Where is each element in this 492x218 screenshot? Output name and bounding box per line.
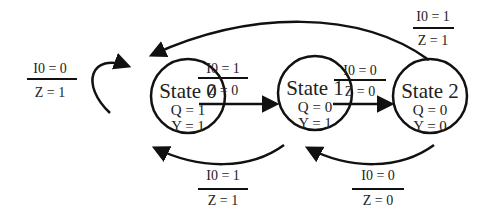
- transition-s2-s1: I0 = 0 Z = 0: [308, 145, 434, 208]
- state-2-y: Y = 0: [413, 118, 447, 134]
- state-1-node: State 1 Q = 0 Y = 1: [278, 56, 352, 131]
- s2-s0-input: I0 = 1: [416, 9, 450, 24]
- transition-s1-s0: I0 = 1 Z = 1: [155, 145, 284, 208]
- s2-s1-output: Z = 0: [363, 193, 393, 208]
- state-0-y: Y = 1: [171, 118, 205, 134]
- s0-s1-output: Z = 0: [208, 83, 238, 98]
- s1-s0-arrow-icon: [155, 145, 284, 164]
- s2-s1-input: I0 = 0: [361, 168, 395, 183]
- s1-s2-input: I0 = 0: [343, 63, 377, 78]
- s2-s1-arrow-icon: [308, 145, 434, 164]
- s1-s2-output: Z = 0: [345, 84, 375, 99]
- state-2-node: State 2 Q = 0 Y = 0: [393, 59, 467, 134]
- state-diagram: State 0 Q = 1 Y = 1 State 1 Q = 0 Y = 1 …: [0, 0, 492, 218]
- transition-s0-s1: I0 = 1 Z = 0: [198, 61, 276, 104]
- state-2-q: Q = 0: [413, 102, 447, 118]
- transition-s2-s0: I0 = 1 Z = 1: [152, 9, 454, 60]
- state-1-y: Y = 1: [298, 115, 332, 131]
- s2-s0-output: Z = 1: [418, 33, 448, 48]
- s2-s0-arrow-icon: [152, 22, 429, 60]
- state-2-name: State 2: [401, 79, 459, 103]
- transition-s0-s0: I0 = 0 Z = 1: [27, 61, 128, 113]
- s0-s0-input: I0 = 0: [33, 61, 67, 76]
- s1-s0-input: I0 = 1: [206, 168, 240, 183]
- s1-s0-output: Z = 1: [208, 193, 238, 208]
- s0-s0-output: Z = 1: [35, 85, 65, 100]
- s0-s1-input: I0 = 1: [206, 61, 240, 76]
- self-loop-arrow-icon: [92, 63, 128, 113]
- state-1-q: Q = 0: [298, 99, 332, 115]
